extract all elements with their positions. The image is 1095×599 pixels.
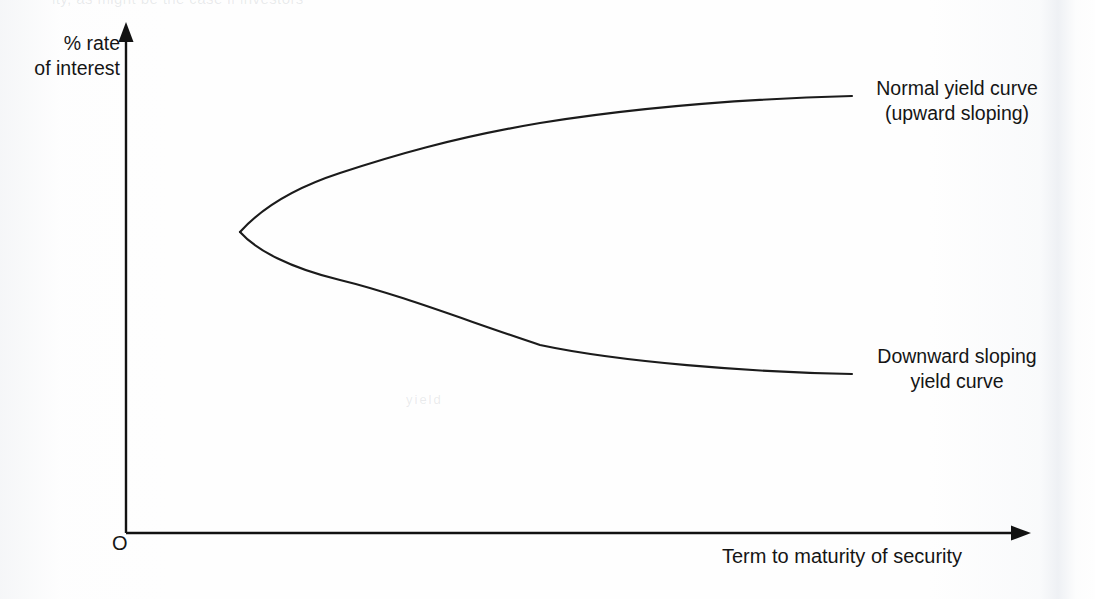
downward-yield-curve-label: Downward sloping yield curve — [845, 344, 1069, 395]
normal-yield-curve-label: Normal yield curve (upward sloping) — [845, 76, 1069, 127]
yield-curve-figure: ity, as might be the case if investors y… — [0, 0, 1095, 599]
origin-label: O — [112, 530, 128, 556]
x-axis-arrow-icon — [1011, 526, 1031, 541]
downward-yield-curve-path — [240, 232, 852, 374]
y-axis-label: % rate of interest — [0, 31, 120, 82]
y-axis-arrow-icon — [119, 22, 134, 42]
x-axis-label: Term to maturity of security — [722, 543, 962, 569]
normal-yield-curve-path — [240, 96, 852, 232]
